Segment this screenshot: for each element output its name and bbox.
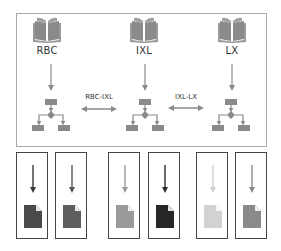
document-box-6 <box>235 152 267 239</box>
document-box-2 <box>55 152 87 239</box>
link-label-ixl-lx: IXL-LX <box>161 93 211 101</box>
document-icon <box>236 153 268 240</box>
document-box-1 <box>16 152 48 239</box>
document-icon <box>197 153 229 240</box>
document-box-5 <box>196 152 228 239</box>
flowchart-icon-rbc <box>32 99 70 131</box>
flowchart-icon-lx <box>212 99 250 131</box>
document-box-3 <box>108 152 140 239</box>
document-icon <box>109 153 141 240</box>
diagram-graphics <box>0 0 281 150</box>
document-icon <box>149 153 181 240</box>
document-icon <box>17 153 49 240</box>
flowchart-icon-ixl <box>126 99 164 131</box>
link-label-rbc-ixl: RBC-IXL <box>74 93 124 101</box>
document-box-4 <box>148 152 180 239</box>
document-icon <box>56 153 88 240</box>
